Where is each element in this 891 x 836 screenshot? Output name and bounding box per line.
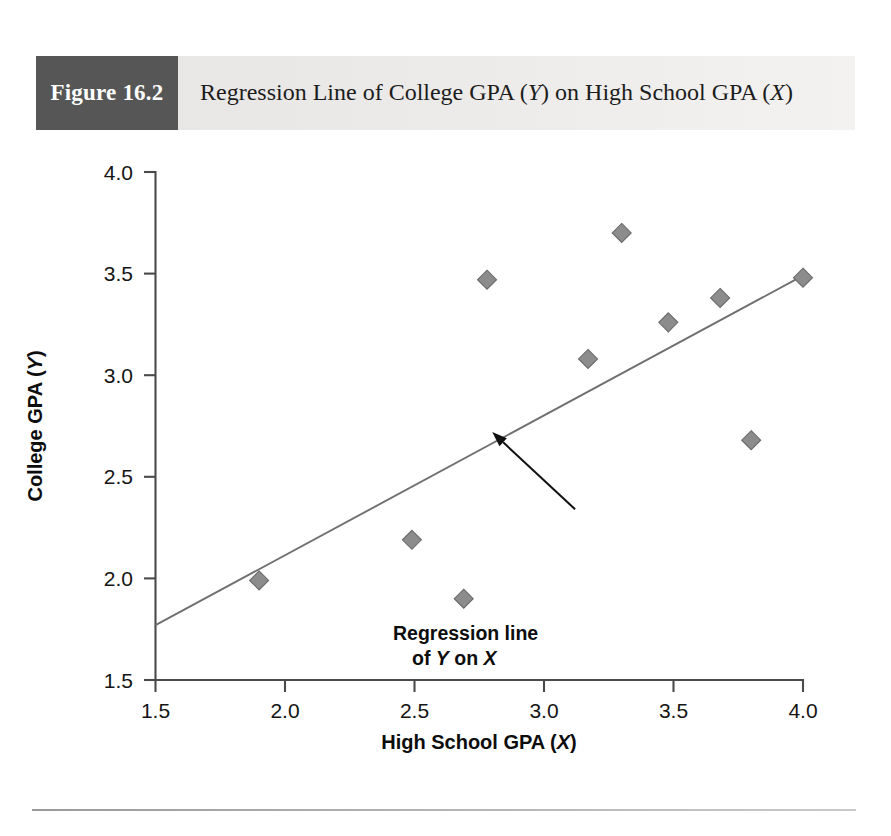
regression-line	[156, 276, 804, 626]
figure-header: Figure 16.2 Regression Line of College G…	[36, 56, 855, 130]
annotation-italic-x: X	[483, 647, 498, 669]
y-axis-title: College GPA (Y)	[24, 350, 46, 501]
x-axis-title-pre: High School GPA (	[381, 731, 557, 753]
data-point	[612, 223, 631, 242]
scatter-plot-svg: 1.52.02.53.03.54.0 1.52.02.53.03.54.0 Re…	[0, 140, 891, 780]
x-axis-ticks	[156, 680, 804, 692]
annotation-group: Regression line of Y on X	[393, 432, 575, 669]
y-tick-label-2.5: 2.5	[104, 465, 133, 488]
y-axis-title-post: )	[24, 350, 46, 357]
figure-title-segment-4: )	[785, 79, 793, 105]
data-point	[454, 589, 473, 608]
figure-number-label: Figure 16.2	[51, 80, 164, 106]
annotation-line-1: Regression line	[393, 622, 538, 644]
scatter-plot-region: 1.52.02.53.03.54.0 1.52.02.53.03.54.0 Re…	[0, 140, 891, 780]
x-tick-label-3.5: 3.5	[659, 699, 688, 722]
data-point	[402, 530, 421, 549]
x-axis-tick-labels: 1.52.02.53.03.54.0	[141, 699, 818, 722]
x-tick-label-4.0: 4.0	[788, 699, 817, 722]
y-tick-label-2.0: 2.0	[104, 567, 133, 590]
x-tick-label-3.0: 3.0	[529, 699, 558, 722]
x-tick-label-2.5: 2.5	[400, 699, 429, 722]
annotation-on: on	[449, 647, 484, 669]
annotation-arrow	[503, 442, 575, 509]
data-point	[742, 431, 761, 450]
data-point	[659, 313, 678, 332]
data-point	[478, 270, 497, 289]
figure-title-italic-x: X	[770, 79, 785, 105]
x-axis-title: High School GPA (X)	[381, 731, 577, 753]
figure-bottom-rule	[32, 809, 856, 811]
axes-group	[156, 172, 804, 680]
y-axis-tick-labels: 1.52.02.53.03.54.0	[104, 161, 133, 692]
figure-title-segment-1: Regression Line of College GPA (	[200, 79, 528, 105]
x-tick-label-1.5: 1.5	[141, 699, 170, 722]
x-axis-title-post: )	[570, 731, 577, 753]
figure-number-box: Figure 16.2	[36, 56, 178, 130]
data-points-group	[250, 223, 813, 608]
y-tick-label-4.0: 4.0	[104, 161, 133, 184]
data-point	[794, 268, 813, 287]
y-tick-label-1.5: 1.5	[104, 669, 133, 692]
annotation-line-2: of Y on X	[412, 647, 498, 669]
annotation-of: of	[412, 647, 436, 669]
data-point	[579, 349, 598, 368]
figure-title-italic-y: Y	[528, 79, 541, 105]
y-axis-title-pre: College GPA (	[24, 370, 46, 501]
figure-title-container: Regression Line of College GPA (Y) on Hi…	[178, 56, 855, 130]
y-tick-label-3.5: 3.5	[104, 262, 133, 285]
figure-title-segment-3: GPA (	[712, 79, 770, 105]
figure-title: Regression Line of College GPA (Y) on Hi…	[200, 78, 793, 107]
y-axis-ticks	[144, 172, 156, 680]
y-tick-label-3.0: 3.0	[104, 364, 133, 387]
figure-title-segment-2: ) on High School	[541, 79, 706, 105]
x-tick-label-2.0: 2.0	[270, 699, 299, 722]
data-point	[711, 288, 730, 307]
